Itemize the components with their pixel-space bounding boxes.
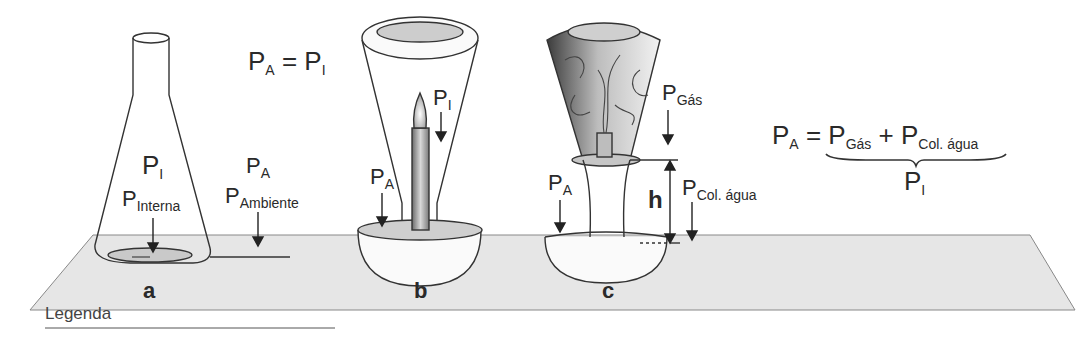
pa-b-sub: A: [385, 176, 394, 192]
eq-right-t2: P: [901, 120, 918, 150]
p-gas-main: P: [662, 80, 677, 105]
p-interna-sub: Interna: [137, 198, 181, 214]
p-ambiente-sub: Ambiente: [240, 195, 299, 211]
smoke-funnel: [545, 23, 680, 283]
pi-a-sub: I: [159, 166, 163, 182]
pi-a-main: P: [142, 150, 159, 180]
label-h: h: [648, 188, 663, 212]
p-col-main: P: [682, 175, 697, 200]
pa-a-main: P: [246, 153, 261, 178]
brace-label-pi: PI: [904, 168, 925, 197]
pa-c-sub: A: [563, 182, 572, 198]
arrow-pi-b: [436, 112, 446, 141]
brace-pi-main: P: [904, 166, 921, 196]
label-p-interna: PInterna: [122, 188, 180, 213]
pa-b-main: P: [370, 164, 385, 189]
arrow-p-col: [687, 202, 697, 240]
eq-right-t2-sub: Col. água: [918, 136, 978, 152]
label-pa-b: PA: [370, 166, 394, 191]
eq-top-lhs: P: [248, 46, 265, 76]
equation-pa-equals-pi: PA = PI: [248, 48, 326, 77]
pa-c-main: P: [548, 170, 563, 195]
eq-right-lhs-sub: A: [789, 136, 798, 152]
label-pa-c: PA: [548, 172, 572, 197]
arrow-p-gas: [663, 110, 673, 144]
legend-title: Legenda: [45, 304, 111, 324]
panel-label-b: b: [414, 280, 427, 302]
arrow-h-double: [665, 161, 675, 243]
brace-pi-sub: I: [921, 182, 925, 198]
arrow-p-ambiente: [253, 212, 263, 246]
label-pa-a: PA: [246, 155, 270, 180]
panel-label-a: a: [143, 280, 155, 302]
candle-funnel: [358, 17, 482, 286]
eq-top-lhs-sub: A: [265, 62, 274, 78]
arrow-pa-b: [377, 193, 387, 226]
p-gas-sub: Gás: [677, 92, 703, 108]
label-p-ambiente: PAmbiente: [225, 185, 299, 210]
p-ambiente-main: P: [225, 183, 240, 208]
eq-right-t1: P: [828, 120, 845, 150]
arrow-pa-c: [555, 200, 565, 232]
panel-label-c: c: [602, 280, 614, 302]
p-interna-main: P: [122, 186, 137, 211]
label-pi-b: PI: [433, 87, 452, 112]
eq-right-equals: =: [799, 120, 829, 150]
underbrace: [826, 154, 1006, 166]
label-pi-a: PI: [142, 152, 163, 181]
eq-top-rhs: P: [304, 46, 321, 76]
p-col-sub: Col. água: [697, 187, 757, 203]
eq-right-lhs: P: [772, 120, 789, 150]
pi-b-main: P: [433, 85, 448, 110]
eq-top-equals: =: [275, 46, 305, 76]
label-p-col-agua: PCol. água: [682, 177, 757, 202]
pa-a-sub: A: [261, 165, 270, 181]
pi-b-sub: I: [448, 97, 452, 113]
eq-right-plus: +: [871, 120, 901, 150]
eq-right-t1-sub: Gás: [846, 136, 872, 152]
equation-pa-sum: PA = PGás + PCol. água: [772, 122, 978, 151]
label-p-gas: PGás: [662, 82, 702, 107]
eq-top-rhs-sub: I: [322, 62, 326, 78]
